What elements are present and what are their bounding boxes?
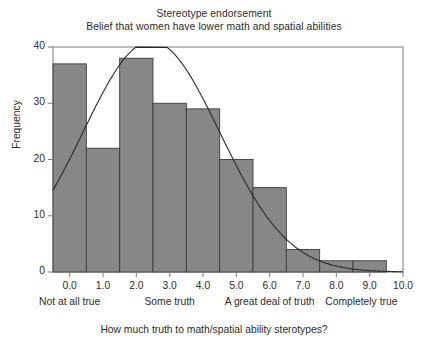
histogram-chart: Stereotype endorsement Belief that women… — [0, 0, 428, 343]
histogram-bar — [86, 148, 119, 272]
histogram-bar — [53, 64, 86, 272]
histogram-bar — [186, 109, 219, 272]
x-axis-title: How much truth to math/spatial ability s… — [0, 324, 428, 335]
histogram-bar — [253, 188, 286, 272]
histogram-bar — [220, 160, 253, 273]
histogram-bar — [120, 58, 153, 272]
histogram-bar — [153, 103, 186, 272]
plot-area — [0, 0, 428, 343]
